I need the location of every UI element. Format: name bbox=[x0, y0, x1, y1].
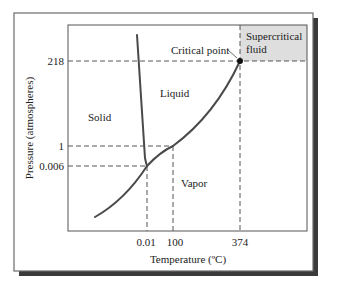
ytick-218: 218 bbox=[48, 55, 65, 67]
phase-diagram-figure: Solid Liquid Vapor Supercritical fluid C… bbox=[0, 0, 339, 291]
xtick-374: 374 bbox=[232, 236, 249, 248]
critical-point-marker bbox=[237, 58, 243, 64]
y-axis-label: Pressure (atmospheres) bbox=[23, 77, 36, 180]
label-critical-point: Critical point bbox=[171, 44, 229, 56]
label-liquid: Liquid bbox=[160, 87, 190, 99]
label-solid: Solid bbox=[88, 111, 112, 123]
xtick-001: 0.01 bbox=[136, 236, 155, 248]
label-vapor: Vapor bbox=[181, 177, 208, 189]
x-axis-label: Temperature (ºC) bbox=[150, 253, 227, 266]
xtick-100: 100 bbox=[167, 236, 184, 248]
label-supercritical-1: Supercritical bbox=[246, 30, 302, 42]
ytick-0006: 0.006 bbox=[39, 160, 64, 172]
ytick-1: 1 bbox=[59, 140, 65, 152]
label-supercritical-2: fluid bbox=[246, 43, 267, 55]
